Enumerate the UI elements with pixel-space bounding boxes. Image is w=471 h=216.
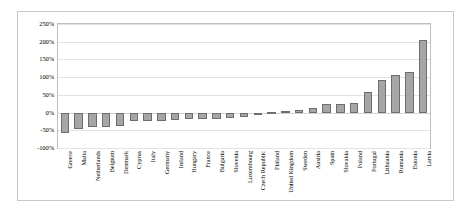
y-axis-tick-label: 200%	[39, 37, 54, 44]
gridline	[58, 148, 430, 149]
bar	[171, 113, 180, 120]
bar	[185, 113, 194, 119]
y-axis-tick-label: 250%	[39, 20, 54, 27]
x-axis-tick-label: Sweden	[301, 151, 308, 199]
bar	[240, 113, 249, 117]
bar	[350, 103, 359, 113]
bar	[309, 108, 318, 113]
bar	[116, 113, 125, 126]
bar	[391, 75, 400, 112]
y-axis-tick-label: 0%	[46, 108, 54, 115]
x-axis-tick-label: Portugal	[370, 151, 377, 199]
x-axis-tick-label: Estonia	[411, 151, 418, 199]
bar	[281, 111, 290, 113]
y-axis: 250%200%150%100%50%0%-50%-100%	[18, 12, 57, 202]
x-axis: GreeceMaltaNetherlandsBelgiumDenmarkCypr…	[57, 151, 431, 199]
bar	[61, 113, 70, 134]
x-axis-tick-label: Spain	[328, 151, 335, 199]
x-axis-tick-label: Bulgaria	[218, 151, 225, 199]
bar	[130, 113, 139, 122]
y-axis-tick-label: -100%	[37, 144, 54, 151]
x-axis-tick-label: Cyprus	[135, 151, 142, 199]
x-axis-tick-label: France	[204, 151, 211, 199]
bar	[405, 72, 414, 113]
bar	[74, 113, 83, 129]
x-axis-tick-label: Finland	[273, 151, 280, 199]
x-axis-tick-label: Latvia	[425, 151, 432, 199]
bar	[267, 112, 276, 114]
bar	[226, 113, 235, 119]
x-axis-tick-label: Luxembourg	[246, 151, 253, 199]
x-axis-tick-label: Belgium	[108, 151, 115, 199]
x-axis-tick-label: Romania	[397, 151, 404, 199]
x-axis-tick-label: Austria	[314, 151, 321, 199]
bar	[254, 113, 263, 115]
x-axis-tick-label: Lithuania	[383, 151, 390, 199]
y-axis-tick-label: -50%	[40, 126, 54, 133]
bar	[419, 40, 428, 113]
bars-layer	[58, 24, 430, 148]
x-axis-tick-label: Hungary	[190, 151, 197, 199]
chart-card: 250%200%150%100%50%0%-50%-100% GreeceMal…	[17, 11, 454, 201]
x-axis-tick-label: Czech Republic	[259, 151, 266, 199]
x-axis-tick-label: Slovakia	[342, 151, 349, 199]
bar	[295, 110, 304, 113]
x-axis-tick-label: Netherlands	[94, 151, 101, 199]
y-axis-tick-label: 150%	[39, 55, 54, 62]
bar	[143, 113, 152, 122]
x-axis-tick-label: United Kingdom	[287, 151, 294, 199]
y-axis-tick-label: 100%	[39, 73, 54, 80]
x-axis-tick-label: Italy	[149, 151, 156, 199]
x-axis-tick-label: Poland	[356, 151, 363, 199]
bar	[157, 113, 166, 121]
x-axis-tick-label: Slovenia	[232, 151, 239, 199]
bar	[88, 113, 97, 128]
x-axis-tick-label: Greece	[66, 151, 73, 199]
bar	[322, 104, 331, 112]
plot-area	[57, 23, 431, 149]
y-axis-tick-label: 50%	[42, 90, 54, 97]
bar	[198, 113, 207, 119]
bar	[336, 104, 345, 113]
x-axis-tick-label: Denmark	[122, 151, 129, 199]
x-axis-tick-label: Ireland	[177, 151, 184, 199]
x-axis-tick-label: Malta	[80, 151, 87, 199]
x-axis-tick-label: Germany	[163, 151, 170, 199]
bar	[102, 113, 111, 127]
bar	[378, 80, 387, 113]
bar	[364, 92, 373, 113]
bar	[212, 113, 221, 119]
